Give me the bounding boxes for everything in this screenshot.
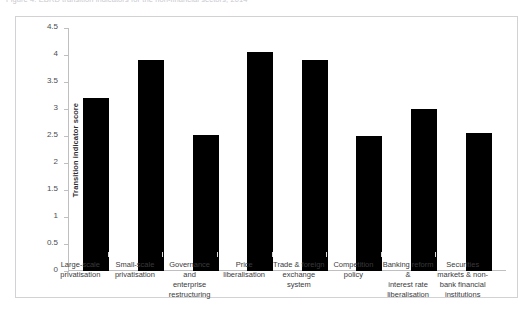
bar-slot (451, 28, 506, 271)
category-label-line: Governance and (162, 260, 217, 280)
category-label-line: liberalisation (217, 270, 272, 280)
y-axis-tick-label: 2.5 (47, 130, 58, 139)
category-label-line: Large-scale (53, 260, 108, 270)
category-separator-tick (435, 252, 436, 257)
category-label-line: Securities (435, 260, 490, 270)
x-axis-category-label: Banking reform &interest rateliberalisat… (381, 256, 436, 300)
y-axis-tick-label: 1.5 (47, 184, 58, 193)
category-label-line: Competition (326, 260, 381, 270)
category-label-line: liberalisation (381, 290, 436, 300)
bar-slot (397, 28, 452, 271)
y-axis-tick-label: 3 (54, 103, 58, 112)
category-separator-tick (326, 252, 327, 257)
plot-area: Transition indicator score 00.511.522.53… (68, 28, 506, 271)
figure-caption-strip: Figure 4: EBRD transition indicators for… (0, 0, 532, 11)
category-label-line: interest rate (381, 280, 436, 290)
category-separator-tick (108, 252, 109, 257)
category-label-line: privatisation (53, 270, 108, 280)
bar-slot (178, 28, 233, 271)
category-separator-tick (217, 252, 218, 257)
bar-slot (69, 28, 124, 271)
category-label-line: institutions (435, 290, 490, 300)
category-label-line: restructuring (162, 290, 217, 300)
category-label-line: policy (326, 270, 381, 280)
category-separator-tick (272, 252, 273, 257)
category-label-line: exchange system (272, 270, 327, 290)
figure-caption-text: Figure 4: EBRD transition indicators for… (6, 0, 247, 4)
x-axis-category-label: Priceliberalisation (217, 256, 272, 280)
bar[interactable] (193, 135, 219, 271)
category-label-line: Banking reform & (381, 260, 436, 280)
category-label-line: markets & non- (435, 270, 490, 280)
bar[interactable] (411, 109, 437, 271)
y-axis-tick-label: 4.5 (47, 22, 58, 31)
category-separator-tick (162, 252, 163, 257)
y-axis-tick-label: 0.5 (47, 238, 58, 247)
category-label-line: enterprise (162, 280, 217, 290)
x-axis-category-label: Small-scaleprivatisation (108, 256, 163, 280)
bar[interactable] (83, 98, 109, 271)
x-axis-category-label: Trade & foreignexchange system (272, 256, 327, 290)
y-axis-tick-label: 2 (54, 157, 58, 166)
bar[interactable] (302, 60, 328, 271)
category-label-line: Price (217, 260, 272, 270)
bar[interactable] (356, 136, 382, 271)
bars-layer (69, 28, 506, 271)
category-label-line: Trade & foreign (272, 260, 327, 270)
x-axis-category-label: Securitiesmarkets & non-bank financialin… (435, 256, 490, 300)
x-axis-category-labels: Large-scaleprivatisationSmall-scalepriva… (53, 256, 490, 300)
y-axis-tick-label: 3.5 (47, 76, 58, 85)
category-label-line: privatisation (108, 270, 163, 280)
x-axis-category-label: Competitionpolicy (326, 256, 381, 280)
category-separator-tick (381, 252, 382, 257)
bar[interactable] (138, 60, 164, 271)
bar[interactable] (247, 52, 273, 271)
bar-slot (288, 28, 343, 271)
category-label-line: Small-scale (108, 260, 163, 270)
x-axis-category-label: Large-scaleprivatisation (53, 256, 108, 280)
bar[interactable] (466, 133, 492, 271)
y-axis-tick-label: 1 (54, 211, 58, 220)
bar-slot (342, 28, 397, 271)
bar-slot (233, 28, 288, 271)
x-axis-category-label: Governance andenterpriserestructuring (162, 256, 217, 300)
category-label-line: bank financial (435, 280, 490, 290)
bar-slot (124, 28, 179, 271)
y-axis-tick-label: 4 (54, 49, 58, 58)
